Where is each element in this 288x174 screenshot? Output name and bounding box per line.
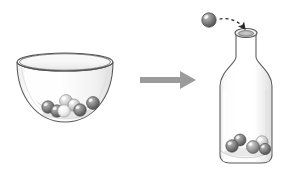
transfer-arrow-shape — [140, 71, 196, 89]
falling-marble — [202, 13, 216, 27]
bowl — [17, 53, 113, 122]
bowl-rim-opening — [20, 54, 111, 70]
bottle — [220, 29, 272, 164]
falling-marble-group — [202, 13, 245, 29]
bowl-marble-4 — [58, 105, 70, 117]
dashed-motion-path — [220, 19, 245, 29]
bottle-marble-5 — [259, 143, 270, 154]
illustration-canvas: Marbles transferred from a bowl into a b… — [0, 0, 288, 174]
bottle-marble-1 — [226, 140, 238, 152]
bowl-marble-7 — [87, 97, 100, 110]
transfer-arrow — [140, 71, 196, 89]
bowl-marble-6 — [74, 104, 86, 116]
bottle-marble-3 — [247, 141, 260, 154]
marble-transfer-illustration: Marbles transferred from a bowl into a b… — [0, 0, 288, 174]
bottle-mouth-opening — [238, 31, 253, 37]
